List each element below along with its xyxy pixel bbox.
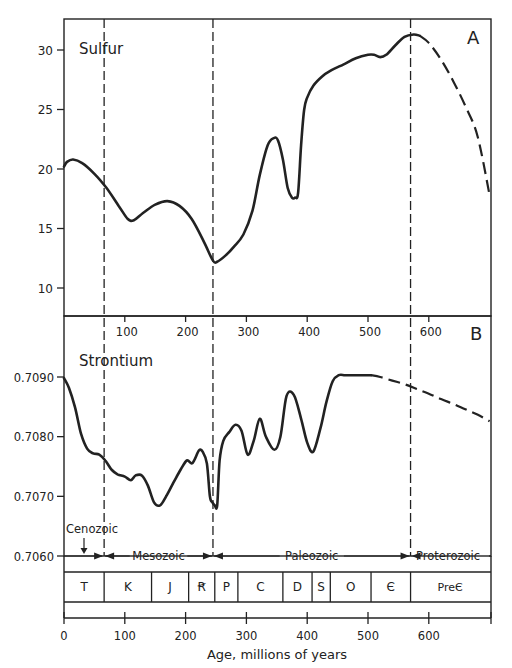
panel-a-title: Sulfur	[79, 40, 124, 58]
y-tick-label: 0.7060	[14, 550, 54, 564]
x-tick-label: 100	[116, 325, 138, 339]
geochemistry-chart: Sulfur A Strontium B 1015202530100200300…	[0, 0, 512, 668]
period-strip: TKJꞦPCDSOЄPreЄ	[64, 572, 491, 602]
x-tick-label: 300	[237, 325, 259, 339]
panel-frames	[64, 19, 491, 618]
y-tick-label: 30	[38, 44, 53, 58]
period-label: D	[293, 580, 302, 594]
x-axis-title: Age, millions of years	[207, 647, 347, 662]
period-label: P	[223, 580, 230, 594]
period-label: Є	[387, 580, 395, 594]
x-tick-label: 100	[114, 629, 136, 643]
x-tick-label: 600	[420, 325, 442, 339]
panel-b-label: B	[470, 323, 482, 344]
x-tick-label: 0	[60, 629, 67, 643]
y-tick-label: 15	[38, 222, 53, 236]
period-label: C	[256, 580, 264, 594]
period-label: K	[124, 580, 133, 594]
y-tick-label: 25	[38, 103, 53, 117]
x-tick-label: 400	[296, 629, 318, 643]
y-tick-label: 0.7070	[14, 490, 54, 504]
sulfur-curve-dashed	[420, 36, 490, 196]
sulfur-curve-solid	[64, 34, 420, 262]
panel-a-frame	[64, 19, 491, 316]
period-label: J	[167, 580, 172, 594]
panel-a-label: A	[467, 27, 480, 48]
era-arrows: CenozoicMesozoicPaleozoicProterozoic	[64, 522, 491, 563]
strontium-curve-dashed	[371, 375, 490, 421]
period-label: O	[346, 580, 355, 594]
period-label: Ꞧ	[198, 580, 207, 594]
data-curves	[64, 34, 490, 508]
x-tick-label: 400	[298, 325, 320, 339]
era-label-mesozoic: Mesozoic	[132, 549, 185, 563]
x-tick-label: 500	[357, 629, 379, 643]
period-label: S	[317, 580, 325, 594]
x-tick-label: 200	[175, 629, 197, 643]
y-tick-label: 0.7090	[14, 371, 54, 385]
period-label: T	[79, 580, 88, 594]
era-boundaries	[104, 19, 410, 556]
x-tick-label: 500	[359, 325, 381, 339]
panel-b-title: Strontium	[79, 352, 153, 370]
x-tick-label: 300	[235, 629, 257, 643]
x-tick-label: 600	[418, 629, 440, 643]
y-tick-label: 0.7080	[14, 430, 54, 444]
period-label: PreЄ	[437, 581, 462, 594]
x-tick-label: 200	[177, 325, 199, 339]
era-label-proterozoic: Proterozoic	[416, 549, 480, 563]
strontium-curve-solid	[64, 375, 371, 509]
y-tick-label: 10	[38, 282, 53, 296]
y-tick-label: 20	[38, 163, 53, 177]
era-label-cenozoic: Cenozoic	[66, 522, 118, 536]
era-label-paleozoic: Paleozoic	[285, 549, 338, 563]
